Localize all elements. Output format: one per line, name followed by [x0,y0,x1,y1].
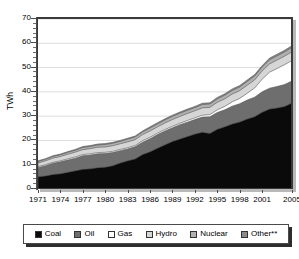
x-tick [217,190,218,193]
y-tick-label: 30 [3,111,31,119]
legend-swatch-icon [190,231,197,238]
legend-swatch-icon [108,231,115,238]
y-tick-label: 20 [3,135,31,143]
x-tick [105,190,106,193]
legend-label: Other** [251,230,277,238]
y-tick-label: 60 [3,38,31,46]
legend-swatch-icon [35,231,42,238]
legend-label: Oil [84,230,94,238]
x-tick [195,190,196,193]
x-tick [83,190,84,193]
y-tick-label: 40 [3,87,31,95]
x-tick [240,190,241,193]
legend-swatch-icon [74,231,81,238]
legend-item-oil[interactable]: Oil [74,230,94,238]
x-tick [128,190,129,193]
x-tick [262,190,263,193]
legend-swatch-icon [146,231,153,238]
y-tick-label: 10 [3,160,31,168]
legend-label: Coal [45,230,61,238]
legend-item-nuclear[interactable]: Nuclear [190,230,228,238]
legend-label: Nuclear [200,230,228,238]
legend-label: Gas [118,230,133,238]
x-tick [292,190,293,193]
chart-legend: CoalOilGasHydroNuclearOther** [23,224,289,244]
x-tick [60,190,61,193]
plot-frame [37,17,293,189]
y-tick-label: 70 [3,14,31,22]
legend-item-other[interactable]: Other** [241,230,277,238]
legend-item-coal[interactable]: Coal [35,230,61,238]
legend-swatch-icon [241,231,248,238]
x-tick-label: 2005 [277,195,299,204]
legend-item-gas[interactable]: Gas [108,230,133,238]
legend-item-hydro[interactable]: Hydro [146,230,177,238]
chart-figure: TWh 010203040506070 19711974197719801983… [0,0,299,259]
x-tick [150,190,151,193]
y-tick-label: 50 [3,63,31,71]
plot-area [38,19,291,188]
x-tick-label: 2001 [247,195,277,204]
y-tick-label: 0 [3,184,31,192]
x-tick [38,190,39,193]
stacked-area-svg [38,19,291,188]
x-tick [172,190,173,193]
y-axis-labels: 010203040506070 [0,0,31,259]
legend-label: Hydro [156,230,177,238]
